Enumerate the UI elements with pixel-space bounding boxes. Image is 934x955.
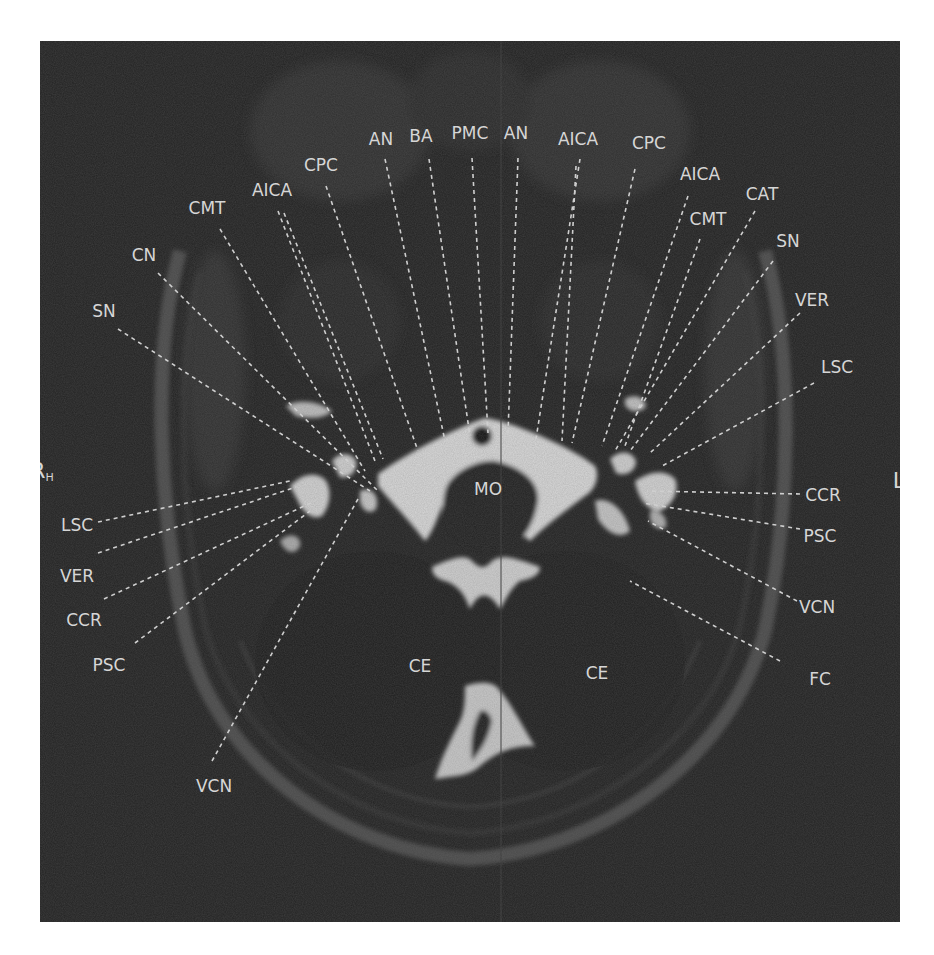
label-cat: CAT (746, 186, 779, 203)
orientation-left-marker: LF (893, 470, 900, 493)
label-ver-1: VER (795, 292, 829, 309)
orientation-right-sub: H (46, 471, 54, 484)
label-cn: CN (132, 247, 157, 264)
label-vcn-1: VCN (799, 599, 835, 616)
label-cpc-2: CPC (304, 157, 338, 174)
label-fc: FC (809, 671, 831, 688)
label-cerebellum-left: CE (586, 665, 609, 682)
label-medulla-oblongata: MO (474, 481, 502, 498)
label-cerebellum-right: CE (409, 658, 432, 675)
orientation-right-marker: RH (40, 460, 54, 483)
label-ba: BA (409, 128, 432, 145)
label-aica-2: AICA (680, 166, 720, 183)
label-lsc-2: LSC (61, 517, 93, 534)
label-aica-1: AICA (558, 131, 598, 148)
label-ccr-1: CCR (805, 487, 841, 504)
label-aica-3: AICA (252, 182, 292, 199)
label-sn-2: SN (92, 303, 116, 320)
label-cpc-1: CPC (632, 135, 666, 152)
label-psc-1: PSC (804, 528, 837, 545)
label-cmt-1: CMT (690, 211, 727, 228)
label-lsc-1: LSC (821, 359, 853, 376)
orientation-left-letter: L (893, 468, 900, 493)
mri-figure: RH LF MO CE CE ANBAPMCANAICACPCAICACATCM… (40, 41, 900, 922)
label-sn-1: SN (776, 233, 800, 250)
label-ccr-2: CCR (66, 612, 102, 629)
label-vcn-2: VCN (196, 778, 232, 795)
label-cmt-2: CMT (189, 200, 226, 217)
label-an-1: AN (369, 131, 393, 148)
mri-scan-image (40, 41, 900, 922)
label-pmc: PMC (452, 125, 489, 142)
label-an-2: AN (504, 125, 528, 142)
label-psc-2: PSC (93, 657, 126, 674)
label-ver-2: VER (60, 568, 94, 585)
